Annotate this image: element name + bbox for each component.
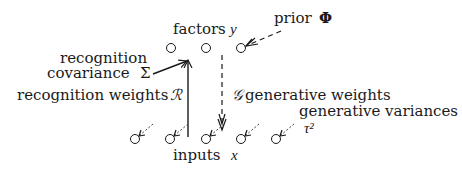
generative-weights-label: generative weights bbox=[245, 88, 391, 103]
factor-analysis-diagram: factors y prior Φ recognition covariance… bbox=[0, 0, 462, 172]
factor-node-2 bbox=[202, 44, 211, 53]
factor-node-1 bbox=[167, 44, 176, 53]
prior-arrow-line bbox=[248, 31, 281, 45]
factors-label: factors bbox=[173, 22, 226, 37]
generative-weights-symbol: 𝒢 bbox=[232, 88, 243, 103]
input-nodes bbox=[131, 135, 281, 144]
input-node-1 bbox=[131, 135, 140, 144]
factors-variable-label: y bbox=[230, 22, 237, 37]
recognition-covariance-label-line2: covariance bbox=[47, 66, 130, 81]
generative-variances-label: generative variances bbox=[299, 104, 458, 119]
factor-node-3 bbox=[237, 44, 246, 53]
prior-symbol: Φ bbox=[319, 11, 332, 26]
input-node-3 bbox=[202, 135, 211, 144]
factor-nodes bbox=[167, 44, 246, 53]
recognition-covariance-symbol: Σ bbox=[140, 66, 151, 81]
recognition-weights-label: recognition weights bbox=[17, 88, 168, 103]
inputs-variable-label: x bbox=[231, 148, 238, 163]
input-node-5 bbox=[272, 135, 281, 144]
inputs-label: inputs bbox=[173, 148, 220, 163]
generative-variances-symbol: τ² bbox=[304, 121, 314, 136]
variance-arrows bbox=[139, 124, 294, 136]
input-node-2 bbox=[166, 135, 175, 144]
recognition-covariance-arrow bbox=[153, 61, 187, 74]
prior-label: prior bbox=[274, 11, 312, 26]
recognition-weights-symbol: ℛ bbox=[170, 88, 182, 103]
input-node-4 bbox=[237, 135, 246, 144]
